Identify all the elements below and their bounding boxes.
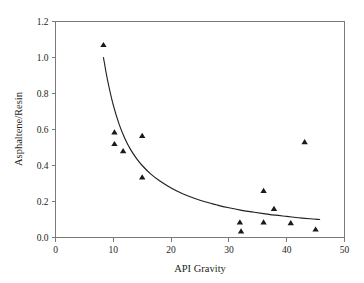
scatter-marker	[120, 148, 126, 153]
x-tick-label: 20	[166, 245, 176, 255]
scatter-marker	[260, 188, 266, 193]
trend-line	[103, 58, 319, 220]
scatter-marker	[271, 206, 277, 211]
scatter-marker	[100, 42, 106, 47]
scatter-marker	[260, 219, 266, 224]
scatter-marker	[139, 174, 145, 179]
y-tick-label: 0.4	[37, 161, 49, 171]
scatter-marker	[288, 220, 294, 225]
scatter-marker	[111, 129, 117, 134]
y-tick-label: 0.0	[37, 233, 49, 243]
y-tick-label: 0.6	[37, 125, 49, 135]
axis-tick-labels: 010203040500.00.20.40.60.81.01.2	[37, 17, 350, 255]
scatter-marker	[111, 141, 117, 146]
x-tick-label: 10	[109, 245, 119, 255]
y-tick-label: 0.8	[37, 89, 49, 99]
x-tick-label: 50	[340, 245, 350, 255]
x-axis-title: API Gravity	[174, 263, 226, 274]
plot-frame	[56, 22, 345, 238]
x-tick-label: 0	[53, 245, 58, 255]
chart-figure: 010203040500.00.20.40.60.81.01.2 API Gra…	[0, 0, 364, 283]
axes	[56, 22, 345, 238]
scatter-marker	[238, 228, 244, 233]
axis-ticks	[52, 22, 345, 242]
x-tick-label: 40	[282, 245, 292, 255]
scatter-plot: 010203040500.00.20.40.60.81.01.2 API Gra…	[0, 0, 364, 283]
scatter-marker	[301, 139, 307, 144]
y-tick-label: 1.0	[37, 53, 49, 63]
y-axis-title: Asphaltene/Resin	[13, 91, 24, 166]
scatter-marker	[312, 226, 318, 231]
x-tick-label: 30	[224, 245, 234, 255]
scatter-marker	[237, 219, 243, 224]
y-tick-label: 0.2	[37, 197, 49, 207]
data-points	[100, 42, 319, 234]
y-tick-label: 1.2	[37, 17, 49, 27]
scatter-marker	[139, 133, 145, 138]
fit-curve	[103, 58, 319, 220]
